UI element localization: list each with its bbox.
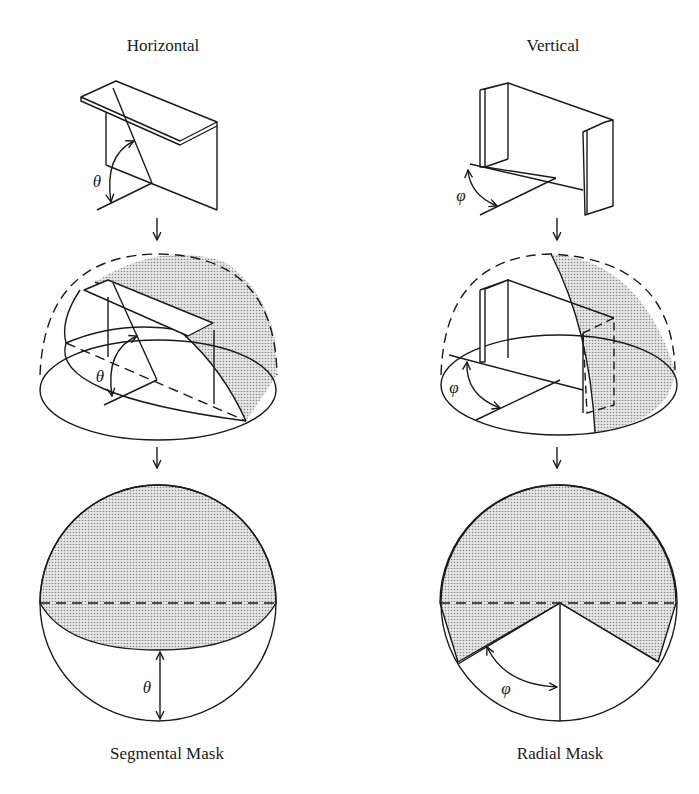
phi-label: φ <box>449 378 458 398</box>
radial-mask-circle <box>440 485 677 721</box>
diagram-canvas <box>0 0 699 794</box>
theta-label: θ <box>96 367 104 387</box>
horizontal-overhang-sketch <box>81 81 217 210</box>
phi-label: φ <box>456 186 465 206</box>
phi-label: φ <box>501 679 510 699</box>
theta-label: θ <box>93 172 101 192</box>
horizontal-hemisphere <box>40 254 277 440</box>
vertical-hemisphere <box>441 254 677 435</box>
vertical-fins-sketch <box>468 83 613 215</box>
horizontal-title: Horizontal <box>127 36 200 56</box>
segmental-mask-circle <box>40 485 276 721</box>
theta-label: θ <box>143 678 151 698</box>
radial-mask-caption: Radial Mask <box>517 744 603 764</box>
segmental-mask-caption: Segmental Mask <box>110 744 224 764</box>
vertical-title: Vertical <box>527 36 580 56</box>
